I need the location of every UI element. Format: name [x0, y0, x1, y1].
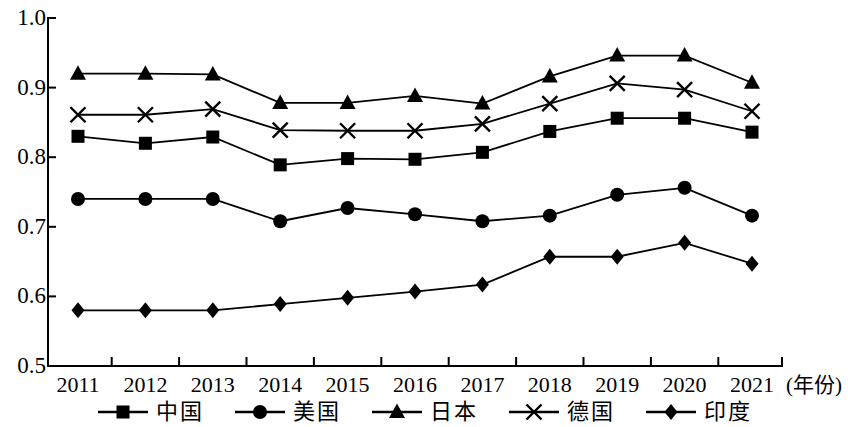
legend-item-0[interactable]: 中国 [97, 401, 204, 423]
data-point [341, 201, 355, 215]
x-axis-unit-label: (年份) [786, 375, 842, 396]
data-point [543, 249, 556, 265]
triangle-marker-icon [371, 401, 423, 423]
chart-axes [48, 18, 782, 366]
data-point [610, 188, 624, 202]
data-point [272, 94, 288, 109]
data-point [611, 112, 624, 125]
legend-label: 日本 [430, 401, 478, 423]
data-point [206, 131, 219, 144]
chart-figure: 1.00.90.80.70.60.5 201120122013201420152… [0, 0, 848, 427]
data-point [341, 152, 354, 165]
series-1 [71, 181, 759, 228]
data-point [409, 153, 422, 166]
x-tick-label: 2019 [582, 374, 652, 396]
diamond-marker-icon [645, 401, 697, 423]
data-point [139, 302, 152, 318]
data-point [475, 214, 489, 228]
data-point [137, 65, 153, 80]
data-point [677, 47, 693, 62]
data-point [746, 126, 759, 139]
data-point [71, 192, 85, 206]
legend-item-1[interactable]: 美国 [234, 401, 341, 423]
data-point [138, 192, 152, 206]
x-tick-label: 2016 [380, 374, 450, 396]
data-point [274, 296, 287, 312]
x-tick-label: 2017 [447, 374, 517, 396]
chart-plot-area: 1.00.90.80.70.60.5 201120122013201420152… [0, 0, 848, 395]
data-point [341, 290, 354, 306]
legend-item-2[interactable]: 日本 [371, 401, 478, 423]
series-3 [71, 76, 760, 138]
data-point [744, 74, 760, 89]
y-tick-label: 0.8 [0, 145, 46, 168]
x-tick-label: 2011 [43, 374, 113, 396]
legend-label: 德国 [567, 401, 615, 423]
series-2 [70, 47, 760, 110]
circle-marker-icon [234, 401, 286, 423]
y-tick-label: 0.7 [0, 215, 46, 238]
data-point [205, 66, 221, 81]
data-point [273, 214, 287, 228]
y-tick-label: 1.0 [0, 6, 46, 29]
data-point [476, 146, 489, 159]
data-point [746, 256, 759, 272]
y-tick-label: 0.6 [0, 284, 46, 307]
data-point [542, 96, 557, 111]
x-tick-label: 2012 [110, 374, 180, 396]
series-0 [72, 112, 759, 172]
y-tick-label: 0.5 [0, 354, 46, 377]
data-point [139, 137, 152, 150]
x-tick-label: 2020 [650, 374, 720, 396]
x-tick-label: 2021 [717, 374, 787, 396]
legend-item-4[interactable]: 印度 [645, 401, 752, 423]
square-marker-icon [97, 401, 149, 423]
data-point [72, 302, 85, 318]
data-point [206, 302, 219, 318]
data-point [206, 192, 220, 206]
x-tick-label: 2015 [313, 374, 383, 396]
data-point [409, 284, 422, 300]
legend-item-3[interactable]: 德国 [508, 401, 615, 423]
data-point [274, 158, 287, 171]
x-tick-label: 2018 [515, 374, 585, 396]
data-point [678, 235, 691, 251]
series-4 [72, 235, 759, 319]
data-point [543, 209, 557, 223]
data-point [543, 125, 556, 138]
y-tick-label: 0.9 [0, 76, 46, 99]
x-tick-label: 2013 [178, 374, 248, 396]
data-point [408, 207, 422, 221]
legend-label: 中国 [156, 401, 204, 423]
data-point [70, 65, 86, 80]
data-point [678, 112, 691, 125]
data-point [745, 209, 759, 223]
data-point [611, 249, 624, 265]
legend-label: 美国 [293, 401, 341, 423]
data-point [678, 181, 692, 195]
data-point [476, 277, 489, 293]
chart-legend: 中国美国日本德国印度 [0, 396, 848, 427]
x-tick-label: 2014 [245, 374, 315, 396]
data-point [745, 104, 760, 119]
line-chart-svg [0, 0, 848, 395]
cross-marker-icon [508, 401, 560, 423]
legend-label: 印度 [704, 401, 752, 423]
data-point [609, 47, 625, 62]
data-point [72, 130, 85, 143]
data-point [407, 87, 423, 102]
